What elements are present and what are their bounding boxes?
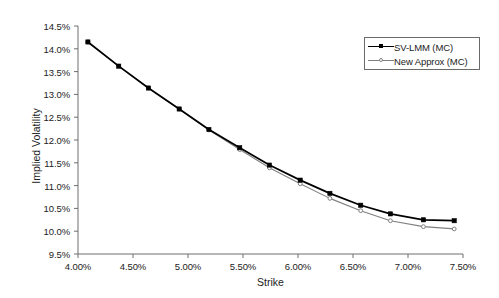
y-tick-label: 11.5% [20,157,70,168]
legend-item-new-approx: New Approx (MC) [365,54,479,68]
legend-item-sv-lmm: SV-LMM (MC) [365,40,479,54]
x-tick-label: 4.50% [120,261,146,272]
y-tick-label: 10.5% [20,203,70,214]
y-tick-label: 13.0% [20,89,70,100]
x-tick-label: 4.00% [65,261,91,272]
y-tick-label: 12.5% [20,112,70,123]
x-tick-label: 5.00% [175,261,201,272]
legend-label-new-approx: New Approx (MC) [394,56,467,67]
y-tick-label: 11.0% [20,180,70,191]
x-tick-label: 7.00% [395,261,421,272]
x-tick-label: 6.00% [285,261,311,272]
x-axis-title: Strike [78,276,463,288]
y-tick-label: 9.5% [20,249,70,260]
y-tick-label: 12.0% [20,135,70,146]
y-tick-label: 14.0% [20,43,70,54]
x-tick-label: 7.50% [450,261,476,272]
legend-marker-sv-lmm-icon [368,41,394,53]
chart-legend: SV-LMM (MC) New Approx (MC) [364,37,480,70]
y-tick-label: 13.5% [20,66,70,77]
implied-volatility-chart: 9.5%10.0%10.5%11.0%11.5%12.0%12.5%13.0%1… [0,0,499,298]
legend-label-sv-lmm: SV-LMM (MC) [394,42,453,53]
x-tick-label: 5.50% [230,261,256,272]
y-tick-label: 10.0% [20,226,70,237]
y-axis-title: Implied Volatility [30,66,42,226]
x-tick-label: 6.50% [340,261,366,272]
legend-marker-new-approx-icon [368,55,394,67]
y-tick-label: 14.5% [20,21,70,32]
